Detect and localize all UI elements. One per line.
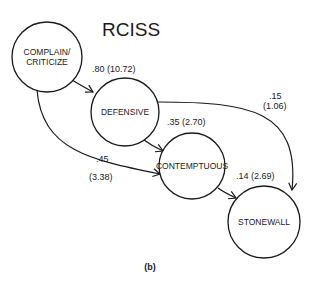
figure-caption: (b) (144, 262, 156, 272)
node-complain-label-line1: COMPLAIN/ (24, 47, 71, 57)
edge-label-complain-contemptuous-bottom: (3.38) (89, 172, 113, 182)
edge-label-contemptuous-stonewall: .14 (2.69) (236, 171, 275, 181)
edge-label-complain-contemptuous-top: .45 (96, 154, 109, 164)
edge-label-complain-defensive: .80 (10.72) (92, 64, 136, 74)
node-complain-label-line2: CRITICIZE (26, 57, 68, 67)
edge-contemptuous-stonewall (218, 188, 236, 198)
node-stonewall-label: STONEWALL (238, 217, 290, 227)
node-defensive-label: DEFENSIVE (101, 107, 150, 117)
edge-label-defensive-stonewall-bottom: (1.06) (263, 101, 287, 111)
edge-label-defensive-stonewall-top: .15 (269, 91, 282, 101)
node-defensive: DEFENSIVE (91, 78, 159, 146)
node-complain-criticize: COMPLAIN/ CRITICIZE (12, 22, 82, 92)
rciss-diagram: RCISS COMPLAIN/ CRITICIZE DEFENSIVE CONT… (0, 0, 312, 284)
edge-label-defensive-contemptuous: .35 (2.70) (167, 117, 206, 127)
node-contemptuous-label: CONTEMPTUOUS (156, 161, 229, 171)
edge-complain-defensive (72, 80, 93, 92)
diagram-title: RCISS (102, 19, 160, 40)
node-stonewall: STONEWALL (228, 186, 300, 258)
edge-defensive-contemptuous (144, 140, 163, 151)
node-contemptuous: CONTEMPTUOUS (156, 133, 229, 199)
